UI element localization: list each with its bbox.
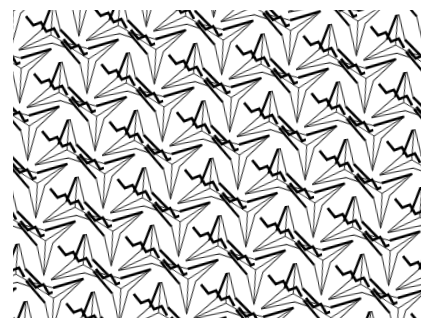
pattern-fill	[13, 10, 421, 318]
tessellation-pattern	[13, 10, 421, 318]
tessellation-svg	[13, 10, 421, 318]
